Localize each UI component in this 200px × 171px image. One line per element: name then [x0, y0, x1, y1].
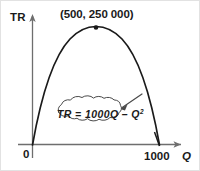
origin-label: 0	[23, 149, 29, 161]
x-axis-label: Q	[182, 151, 191, 163]
vertex-marker-dot	[94, 25, 99, 30]
equation-callout-text: TR = 1000Q – Q2	[57, 109, 144, 120]
equation-exponent: 2	[140, 108, 144, 115]
callout-pointer-line	[120, 94, 142, 109]
vertex-coordinate-label: (500, 250 000)	[60, 9, 133, 21]
revenue-curve	[33, 27, 160, 146]
x-axis	[18, 141, 181, 147]
equation-base: TR = 1000Q – Q	[57, 108, 140, 120]
y-axis-label: TR	[10, 12, 26, 24]
tr-parabola-figure: TR Q 0 1000 (500, 250 000) TR = 1000Q – …	[0, 0, 200, 171]
x-tick-label-1000: 1000	[144, 151, 170, 163]
chart-canvas	[1, 1, 200, 171]
